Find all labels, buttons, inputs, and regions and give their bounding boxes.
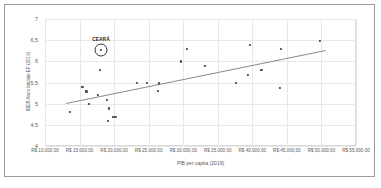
gridline-horizontal bbox=[45, 61, 356, 62]
gridline-horizontal bbox=[45, 19, 356, 20]
gridline-horizontal bbox=[45, 104, 356, 105]
highlight-label: CEARÁ bbox=[92, 37, 110, 42]
gridline-horizontal bbox=[45, 83, 356, 84]
y-axis-tick-label: 7 bbox=[35, 16, 38, 22]
x-axis-tick-label: R$ 25.000,00 bbox=[135, 148, 163, 153]
y-axis-tick-label: 6 bbox=[35, 58, 38, 64]
y-axis-tick-label: 5 bbox=[35, 101, 38, 107]
y-axis-tick-label: 6,5 bbox=[31, 37, 39, 43]
x-axis-tick-label: R$ 45.000,00 bbox=[273, 148, 301, 153]
x-axis-tick-label: R$ 15.000,00 bbox=[66, 148, 94, 153]
gridline-horizontal bbox=[45, 125, 356, 126]
x-axis-tick-labels: R$ 10.000,00R$ 15.000,00R$ 20.000,00R$ 2… bbox=[45, 148, 356, 160]
chart-figure: IDEB Anos Iniciais-EF (2019) 44,555,566,… bbox=[4, 4, 375, 177]
plot-area: CEARÁ bbox=[45, 19, 356, 146]
x-axis-tick-label: R$ 50.000,00 bbox=[308, 148, 336, 153]
x-axis-tick-label: R$ 40.000,00 bbox=[239, 148, 267, 153]
x-axis-title: PIB per capita (2019) bbox=[45, 160, 356, 166]
x-axis-tick-label: R$ 30.000,00 bbox=[169, 148, 197, 153]
y-axis-tick-label: 5,5 bbox=[31, 80, 39, 86]
x-axis-tick-label: R$ 10.000,00 bbox=[31, 148, 59, 153]
gridline-horizontal bbox=[45, 146, 356, 147]
y-axis-tick-label: 4,5 bbox=[31, 122, 39, 128]
gridline-vertical bbox=[356, 19, 357, 146]
y-axis-tick-labels: 44,555,566,57 bbox=[5, 19, 41, 146]
highlight-ring-icon bbox=[94, 43, 107, 56]
x-axis-tick-label: R$ 55.000,00 bbox=[342, 148, 370, 153]
x-axis-tick-label: R$ 20.000,00 bbox=[100, 148, 128, 153]
x-axis-tick-label: R$ 35.000,00 bbox=[204, 148, 232, 153]
